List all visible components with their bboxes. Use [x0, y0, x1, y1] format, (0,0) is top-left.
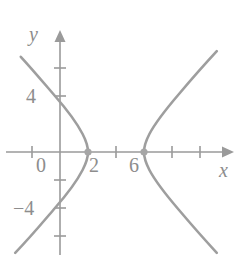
y-tick-label-4: 4	[26, 86, 36, 106]
x-tick-label-6: 6	[129, 155, 139, 175]
x-axis-label: x	[219, 160, 228, 180]
origin-label: 0	[36, 155, 46, 175]
graph-figure: y x 4 −4 0 2 6	[0, 0, 242, 271]
x-tick-label-2: 2	[89, 155, 99, 175]
x-axis-arrow-icon	[222, 147, 234, 158]
y-axis-label: y	[29, 24, 38, 44]
y-tick-label-minus4: −4	[13, 198, 34, 218]
y-axis-arrow-icon	[55, 30, 66, 42]
vertex-point-right	[140, 148, 147, 155]
